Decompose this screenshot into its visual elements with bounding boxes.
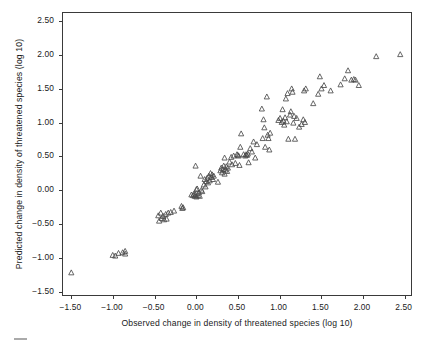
- y-tick-label-4: 0.50: [20, 150, 54, 160]
- data-point: [328, 88, 333, 93]
- data-point: [264, 94, 269, 99]
- data-point: [246, 160, 251, 165]
- y-tick-label-6: 1.50: [20, 83, 54, 93]
- x-tick-label-4: 0.50: [229, 302, 246, 312]
- data-point: [263, 144, 268, 149]
- y-tick-8: [59, 21, 63, 22]
- x-tick-label-3: 0.00: [187, 302, 204, 312]
- data-point: [262, 125, 267, 130]
- data-point: [283, 96, 288, 101]
- data-point: [338, 82, 343, 87]
- x-tick-0: [71, 295, 72, 299]
- data-point: [69, 270, 74, 275]
- y-tick-label-3: 0.00: [20, 184, 54, 194]
- data-point: [280, 107, 285, 112]
- y-tick-1: [59, 258, 63, 259]
- data-point: [261, 117, 266, 122]
- x-tick-4: [238, 295, 239, 299]
- x-tick-label-0: −1.50: [59, 302, 81, 312]
- y-tick-label-7: 2.00: [20, 49, 54, 59]
- x-axis-label: Observed change in density of threatened…: [62, 318, 412, 328]
- x-tick-1: [113, 295, 114, 299]
- y-tick-label-0: −1.50: [20, 286, 54, 296]
- data-point: [233, 160, 238, 165]
- data-point: [374, 54, 379, 59]
- data-point: [316, 91, 321, 96]
- data-point: [287, 112, 292, 117]
- y-tick-2: [59, 224, 63, 225]
- x-tick-5: [280, 295, 281, 299]
- x-tick-2: [155, 295, 156, 299]
- x-tick-3: [196, 295, 197, 299]
- x-tick-6: [321, 295, 322, 299]
- x-tick-label-7: 2.00: [354, 302, 371, 312]
- y-tick-4: [59, 156, 63, 157]
- data-point: [249, 149, 254, 154]
- data-point: [342, 76, 347, 81]
- x-tick-label-1: −1.00: [101, 302, 123, 312]
- data-point: [260, 136, 265, 141]
- data-point: [253, 155, 258, 160]
- y-tick-5: [59, 123, 63, 124]
- scatter-plot-figure: Observed change in density of threatened…: [0, 0, 429, 346]
- y-tick-label-1: −1.00: [20, 252, 54, 262]
- data-point: [290, 89, 295, 94]
- x-tick-label-5: 1.00: [270, 302, 287, 312]
- plot-area: [63, 13, 411, 295]
- x-tick-label-6: 1.50: [312, 302, 329, 312]
- data-point: [321, 83, 326, 88]
- data-point: [285, 91, 290, 96]
- data-point: [239, 131, 244, 136]
- data-point: [345, 68, 350, 73]
- data-point: [286, 136, 291, 141]
- y-tick-label-8: 2.50: [20, 15, 54, 25]
- data-point: [266, 136, 271, 141]
- data-point: [311, 101, 316, 106]
- x-tick-label-2: −0.50: [143, 302, 165, 312]
- y-tick-0: [59, 292, 63, 293]
- y-tick-label-2: −0.50: [20, 218, 54, 228]
- data-point: [317, 74, 322, 79]
- data-point: [259, 106, 264, 111]
- data-points-layer: [63, 13, 411, 295]
- data-point: [356, 83, 361, 88]
- scan-artifact-mark: [14, 338, 27, 340]
- y-tick-3: [59, 190, 63, 191]
- x-tick-label-8: 2.50: [395, 302, 412, 312]
- data-point: [238, 144, 243, 149]
- data-point: [171, 208, 176, 213]
- plot-frame: [62, 12, 412, 296]
- y-tick-label-5: 1.00: [20, 117, 54, 127]
- y-tick-7: [59, 55, 63, 56]
- data-point: [222, 155, 227, 160]
- data-point: [193, 163, 198, 168]
- data-point: [291, 120, 296, 125]
- data-point: [251, 139, 256, 144]
- data-point: [292, 136, 297, 141]
- x-tick-8: [405, 295, 406, 299]
- x-tick-7: [363, 295, 364, 299]
- data-point: [198, 173, 203, 178]
- data-point: [398, 52, 403, 57]
- y-tick-6: [59, 89, 63, 90]
